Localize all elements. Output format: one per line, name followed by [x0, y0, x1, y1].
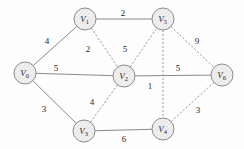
node-label-v2: V2	[119, 71, 128, 81]
node-label-v0: V0	[20, 68, 29, 78]
node-label-v4: V4	[158, 124, 167, 134]
edge-v0-v2	[36, 73, 113, 75]
edge-v2-v5	[130, 28, 157, 67]
edge-weight-v3-v4: 6	[122, 134, 127, 144]
edge-weight-v4-v6: 3	[196, 105, 201, 115]
node-letter: V	[80, 14, 86, 24]
node-letter: V	[20, 68, 26, 78]
node-label-v1: V1	[80, 14, 89, 24]
edge-weight-v2-v5: 5	[123, 44, 128, 54]
node-subscript: 5	[164, 18, 167, 25]
edge-v1-v2	[91, 28, 118, 67]
edge-v3-v4	[95, 129, 152, 130]
edge-weight-v2-v6: 5	[176, 63, 181, 73]
edge-weight-v5-v6: 9	[195, 36, 200, 46]
node-letter: V	[158, 14, 164, 24]
node-label-v5: V5	[158, 14, 167, 24]
node-subscript: 6	[223, 74, 226, 81]
edge-v0-v3	[33, 81, 76, 124]
node-subscript: 4	[164, 128, 167, 135]
edge-weight-v0-v3: 3	[42, 104, 47, 114]
node-label-v3: V3	[79, 126, 88, 136]
node-subscript: 2	[125, 75, 128, 82]
node-subscript: 1	[86, 18, 89, 25]
edge-v4-v6	[171, 82, 214, 121]
node-label-v6: V6	[217, 70, 226, 80]
node-letter: V	[217, 70, 223, 80]
node-subscript: 3	[85, 130, 88, 137]
node-subscript: 0	[26, 72, 29, 79]
edge-weight-v1-v2: 2	[86, 44, 91, 54]
node-letter: V	[119, 71, 125, 81]
edge-weight-v0-v1: 4	[45, 36, 50, 46]
edge-weight-v0-v2: 5	[54, 63, 59, 73]
edge-v0-v1	[33, 26, 77, 65]
weighted-graph-diagram: 453225951463V0V1V5V2V6V3V4	[0, 0, 244, 149]
edge-weight-v5-v4: 1	[148, 81, 153, 91]
edge-weight-v2-v3: 4	[90, 97, 95, 107]
edge-weight-v1-v5: 2	[121, 8, 126, 18]
edge-v5-v6	[171, 27, 214, 68]
edge-v2-v6	[135, 75, 211, 76]
node-letter: V	[79, 126, 85, 136]
node-letter: V	[158, 124, 164, 134]
